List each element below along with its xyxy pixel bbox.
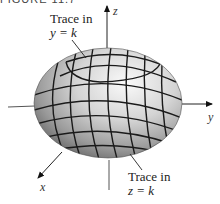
label-trace-z: Trace in z = k (128, 170, 171, 198)
z-axis-label: z (113, 4, 118, 19)
ellipsoid-diagram (0, 0, 220, 204)
ellipsoid-surface (34, 47, 182, 162)
x-axis-label: x (40, 180, 45, 195)
y-axis-negative (8, 106, 35, 107)
y-axis-label: y (208, 110, 213, 125)
label-trace-y: Trace in y = k (50, 12, 93, 40)
leader-trace-z (130, 154, 142, 170)
x-axis (38, 152, 62, 178)
